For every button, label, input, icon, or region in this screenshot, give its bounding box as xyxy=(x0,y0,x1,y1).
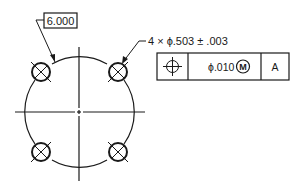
hole-upper-right xyxy=(108,62,128,82)
hole-lower-right xyxy=(108,142,128,162)
hole-callout-text: 4 × ϕ.503 ± .003 xyxy=(148,35,228,47)
hole-callout-leader xyxy=(122,41,146,64)
gdt-drawing: 6.000 4 × ϕ.503 ± .003 ϕ.010 M A xyxy=(0,0,294,190)
fcf-datum: A xyxy=(271,61,278,73)
fcf-modifier: M xyxy=(239,62,247,72)
hole-upper-left xyxy=(31,62,51,82)
hole-lower-left xyxy=(31,142,51,162)
fcf-tolerance: ϕ.010 xyxy=(208,61,234,73)
arrowhead-icon xyxy=(50,54,55,62)
basic-dimension-value: 6.000 xyxy=(47,15,75,27)
